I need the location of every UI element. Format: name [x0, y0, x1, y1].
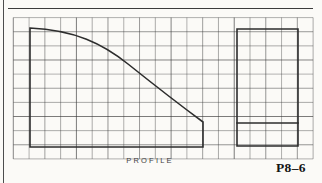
figure-number-label: P8–6 — [252, 160, 306, 176]
grid-lines — [13, 18, 313, 159]
textbook-page: PROFILE P8–6 — [0, 0, 322, 183]
view-label: PROFILE — [99, 155, 201, 166]
side-view-rectangle — [237, 29, 298, 146]
